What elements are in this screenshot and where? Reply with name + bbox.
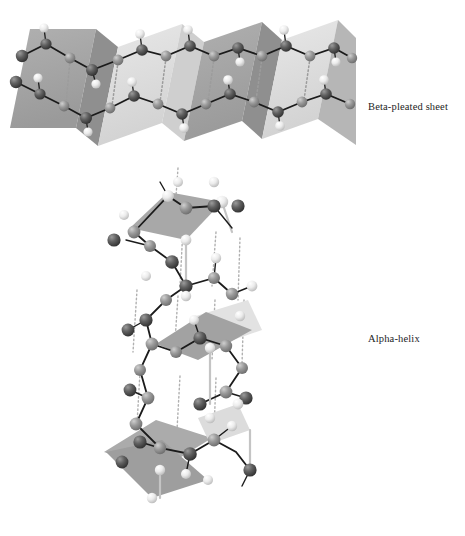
protein-structure-figure: Beta-pleated sheet Alpha-helix bbox=[0, 0, 465, 536]
molecular-illustration bbox=[0, 0, 465, 536]
alpha-helix-label: Alpha-helix bbox=[368, 333, 420, 344]
beta-pleated-sheet-label: Beta-pleated sheet bbox=[368, 101, 448, 112]
beta-pleated-sheet-structure bbox=[10, 20, 357, 146]
alpha-helix-structure bbox=[104, 168, 262, 503]
